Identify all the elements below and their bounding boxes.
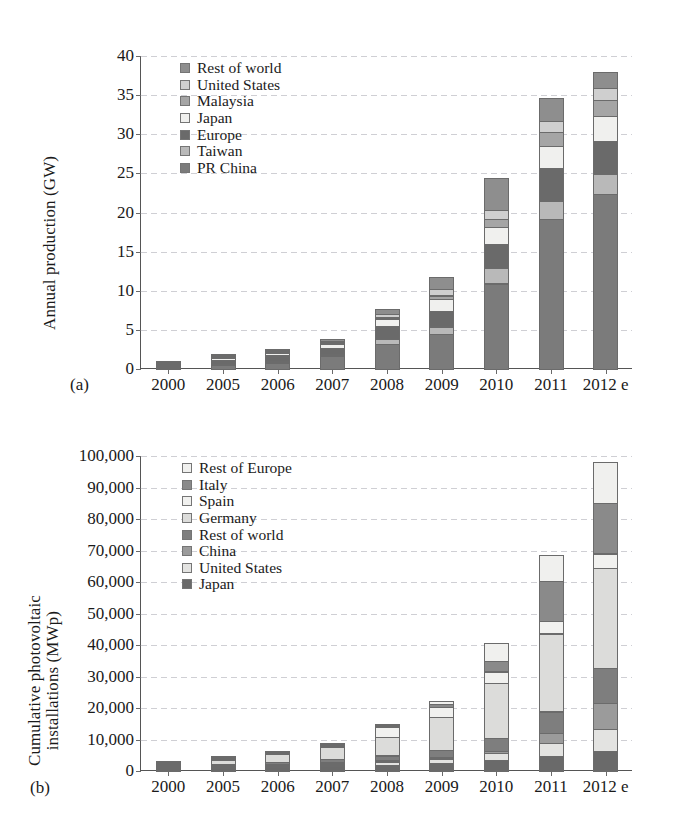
y-tick-mark <box>136 173 141 174</box>
x-tick-label: 2000 <box>151 375 185 395</box>
y-tick-label: 60,000 <box>87 572 134 592</box>
bar-segment-malaysia <box>593 100 618 116</box>
bar-segment-rest-of-world <box>539 712 564 734</box>
y-tick-label: 10 <box>117 281 134 301</box>
y-tick-label: 10,000 <box>87 730 134 750</box>
x-tick-label: 2011 <box>534 375 567 395</box>
bar-segment-japan <box>211 768 236 772</box>
x-tick-mark <box>168 369 169 374</box>
legend-label: Rest of Europe <box>199 459 292 477</box>
legend-label: United States <box>197 76 280 94</box>
y-tick-mark <box>136 291 141 292</box>
x-tick-label: 2008 <box>370 375 404 395</box>
x-tick-label: 2009 <box>425 375 459 395</box>
legend-label: Rest of world <box>199 526 283 544</box>
x-tick-mark <box>442 771 443 776</box>
x-tick-label: 2007 <box>315 375 349 395</box>
chart-b-legend: Rest of EuropeItalySpainGermanyRest of w… <box>182 460 292 593</box>
bar-2007 <box>320 742 345 771</box>
x-tick-mark <box>223 369 224 374</box>
bar-segment-europe <box>593 141 618 175</box>
x-tick-mark <box>551 369 552 374</box>
legend-item-spain: Spain <box>182 493 292 510</box>
y-tick-label: 15 <box>117 242 134 262</box>
legend-item-germany: Germany <box>182 510 292 527</box>
legend-label: Germany <box>199 509 257 527</box>
bar-segment-germany <box>484 683 509 738</box>
legend-item-taiwan: Taiwan <box>180 143 281 160</box>
bar-2010 <box>484 173 509 369</box>
bar-segment-pr-china <box>375 344 400 370</box>
y-tick-mark <box>136 330 141 331</box>
bar-2006 <box>265 347 290 369</box>
y-tick-label: 5 <box>126 320 135 340</box>
bar-2012-e <box>593 67 618 369</box>
y-tick-label: 0 <box>126 359 135 379</box>
bar-2009 <box>429 697 454 771</box>
chart-b-y-axis-title: Cumulative photovoltaic installations (M… <box>26 595 63 766</box>
x-tick-mark <box>278 369 279 374</box>
y-tick-label: 20,000 <box>87 698 134 718</box>
y-tick-mark <box>136 488 141 489</box>
y-tick-label: 30 <box>117 124 134 144</box>
bar-2005 <box>211 354 236 369</box>
bar-segment-rest-of-world <box>593 668 618 704</box>
bar-segment-pr-china <box>156 368 181 370</box>
bar-segment-japan <box>593 751 618 772</box>
bar-segment-japan <box>429 299 454 312</box>
bar-segment-united-states <box>593 729 618 752</box>
bar-segment-pr-china <box>429 334 454 369</box>
x-tick-mark <box>496 369 497 374</box>
legend-item-italy: Italy <box>182 477 292 494</box>
chart-panel-b: Cumulative photovoltaic installations (M… <box>0 416 680 832</box>
bar-segment-japan <box>156 770 181 772</box>
legend-item-japan: Japan <box>180 110 281 127</box>
y-tick-label: 0 <box>126 761 135 781</box>
legend-label: Italy <box>199 476 227 494</box>
y-tick-mark <box>136 519 141 520</box>
bar-segment-japan <box>320 766 345 772</box>
bar-segment-spain <box>593 554 618 569</box>
x-tick-label: 2011 <box>534 777 567 797</box>
y-tick-label: 90,000 <box>87 478 134 498</box>
bar-segment-japan <box>375 765 400 772</box>
x-tick-label: 2012 e <box>583 777 629 797</box>
bar-segment-rest-of-world <box>484 178 509 211</box>
bar-segment-japan <box>593 116 618 142</box>
legend-swatch-icon <box>182 496 192 506</box>
chart-a-y-axis-title: Annual production (GW) <box>40 156 60 330</box>
bar-2000 <box>156 768 181 771</box>
bar-segment-germany <box>320 747 345 760</box>
bar-segment-italy <box>539 581 564 621</box>
x-tick-label: 2012 e <box>583 375 629 395</box>
bar-segment-united-states <box>539 743 564 757</box>
bar-segment-rest-of-world <box>539 98 564 121</box>
bar-segment-pr-china <box>593 194 618 369</box>
chart-b-y-axis-title-line1: Cumulative photovoltaic <box>25 595 44 766</box>
bar-segment-pr-china <box>320 356 345 369</box>
x-tick-mark <box>496 771 497 776</box>
x-tick-mark <box>223 771 224 776</box>
legend-label: Japan <box>197 109 232 127</box>
bar-segment-rest-of-europe <box>539 555 564 582</box>
y-tick-mark <box>136 252 141 253</box>
bar-segment-germany <box>593 568 618 669</box>
y-tick-mark <box>136 551 141 552</box>
legend-swatch-icon <box>180 113 190 123</box>
bar-2010 <box>484 637 509 771</box>
legend-swatch-icon <box>180 146 190 156</box>
legend-item-united-states: United States <box>182 560 292 577</box>
y-tick-label: 80,000 <box>87 509 134 529</box>
legend-swatch-icon <box>182 463 192 473</box>
panel-label-b: (b) <box>30 778 50 798</box>
bar-segment-rest-of-world <box>593 72 618 89</box>
legend-item-europe: Europe <box>180 126 281 143</box>
y-tick-label: 100,000 <box>79 446 134 466</box>
bar-segment-rest-of-europe <box>484 643 509 662</box>
bar-2005 <box>211 756 236 771</box>
legend-swatch-icon <box>182 546 192 556</box>
bar-segment-japan <box>539 146 564 169</box>
bar-segment-germany <box>429 717 454 750</box>
x-tick-mark <box>606 771 607 776</box>
bar-segment-pr-china <box>265 363 290 370</box>
